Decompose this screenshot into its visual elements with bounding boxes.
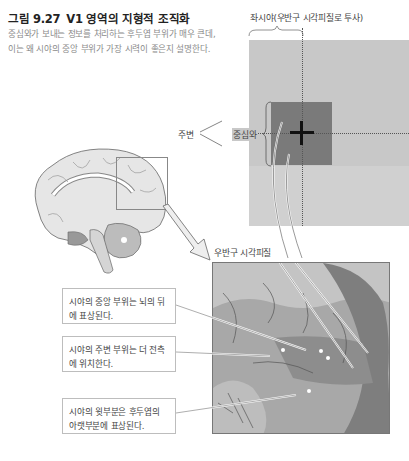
figure-caption: 중심와가 보내는 정보를 처리하는 후두엽 부위가 매우 큰데, 이는 왜 시야… <box>8 27 216 56</box>
zoom-arrow-icon <box>160 204 220 264</box>
periphery-lines <box>198 118 228 148</box>
figure-title: 그림 9.27V1 영역의 지형적 조직화 <box>8 10 190 26</box>
top-brace-icon <box>248 26 308 38</box>
callout-upper-field: 시야의 윗부분은 후두엽의 아랫부분에 표상된다. <box>62 398 176 434</box>
figure-number: 그림 9.27 <box>8 12 60 26</box>
figure-title-text: V1 영역의 지형적 조직화 <box>66 12 190 26</box>
projection-arrows <box>260 118 390 378</box>
callout-peripheral-field: 시야의 주변 부위는 더 전측에 위치한다. <box>62 336 176 372</box>
zoom-region-box <box>116 157 168 210</box>
visual-field-heading: 좌시야(우반구 시각피질로 투사) <box>250 11 363 24</box>
callout-center-field: 시야의 중앙 부위는 뇌의 뒤에 표상된다. <box>62 288 176 324</box>
periphery-label: 주변 <box>178 128 194 141</box>
fovea-label: 중심와 <box>232 128 257 141</box>
